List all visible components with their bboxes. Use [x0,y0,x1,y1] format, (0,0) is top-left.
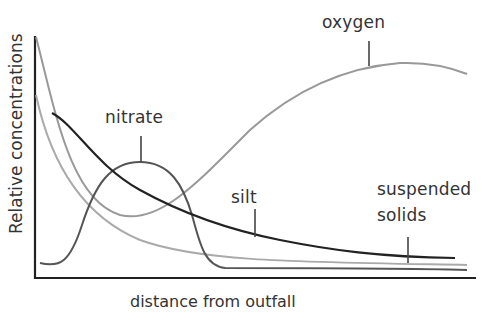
nitrate-label: nitrate [105,107,163,127]
suspended-solids-label-line2: solids [377,205,427,225]
oxygen-label: oxygen [322,12,385,32]
x-axis-label: distance from outfall [130,292,296,311]
y-axis-label: Relative concentrations [6,34,26,234]
suspended-solids-label-line1: suspended [377,179,471,199]
chart-canvas [0,0,486,316]
silt-label: silt [231,187,257,207]
